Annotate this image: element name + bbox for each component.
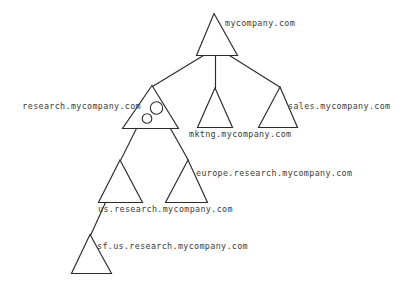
label-research: research.mycompany.com [0,101,141,111]
label-root: mycompany.com [225,18,295,28]
triangle-us-research[interactable] [99,160,143,203]
edge-root-to-sales [230,56,281,88]
label-us-research: us.research.mycompany.com [98,204,233,214]
research-zone-circle-large [150,102,162,114]
label-sales: sales.mycompany.com [288,101,390,111]
label-mktng: mktng.mycompany.com [189,129,291,139]
research-zone-circle-small [142,114,152,124]
label-europe-research: europe.research.mycompany.com [196,168,352,178]
edge-research-to-europe-research [171,129,189,161]
triangle-mktng[interactable] [198,88,233,128]
label-sf-us-research: sf.us.research.mycompany.com [97,241,248,251]
diagram-canvas: mycompany.com research.mycompany.com mkt… [0,0,412,291]
triangle-europe-research[interactable] [166,160,208,203]
edge-root-to-research [153,56,204,87]
edge-research-to-us-research [121,129,137,161]
